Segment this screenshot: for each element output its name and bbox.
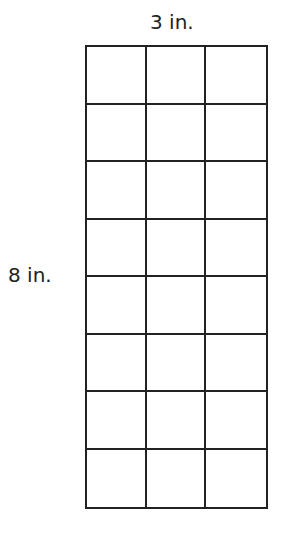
grid-cell [147,277,207,335]
grid-cell [87,392,147,450]
grid-cell [206,277,266,335]
grid-cell [206,47,266,105]
width-label: 3 in. [150,12,194,32]
grid-cell [206,392,266,450]
grid-cell [147,162,207,220]
grid-cell [87,220,147,278]
grid-cell [147,220,207,278]
grid-cell [87,162,147,220]
grid-cell [206,162,266,220]
grid-cell [206,335,266,393]
grid-cell [206,220,266,278]
grid-cell [87,47,147,105]
grid-cell [147,335,207,393]
grid-cell [147,450,207,508]
grid-cell [147,47,207,105]
grid-cell [87,277,147,335]
grid-cell [206,105,266,163]
grid-cell [147,392,207,450]
height-label: 8 in. [8,265,52,285]
grid-cell [206,450,266,508]
grid-cell [87,450,147,508]
unit-square-grid [85,45,268,509]
grid-cell [147,105,207,163]
grid-cell [87,105,147,163]
grid-cell [87,335,147,393]
